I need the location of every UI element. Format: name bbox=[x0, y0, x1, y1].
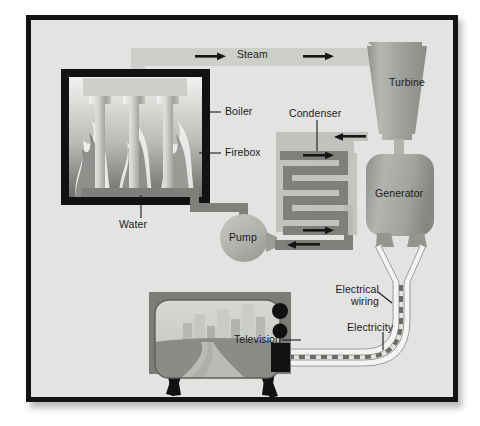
label-electricity: Electricity bbox=[347, 322, 393, 334]
label-generator: Generator bbox=[375, 188, 423, 200]
turbine bbox=[367, 42, 427, 155]
water-pipe bbox=[81, 188, 248, 233]
label-turbine: Turbine bbox=[389, 77, 425, 89]
label-steam: Steam bbox=[237, 49, 268, 61]
label-boiler: Boiler bbox=[225, 106, 252, 118]
label-electrical-wiring-line2: wiring bbox=[299, 296, 379, 308]
label-firebox: Firebox bbox=[225, 147, 261, 159]
diagram-frame: Steam Turbine Boiler Firebox Water Pump … bbox=[26, 15, 458, 402]
diagram-canvas: Steam Turbine Boiler Firebox Water Pump … bbox=[31, 20, 453, 397]
diagram-page: Steam Turbine Boiler Firebox Water Pump … bbox=[0, 0, 480, 426]
label-water: Water bbox=[119, 219, 147, 231]
label-electrical-wiring-line1: Electrical bbox=[299, 284, 379, 296]
label-condenser: Condenser bbox=[289, 108, 341, 120]
label-television: Television bbox=[203, 334, 281, 346]
generator bbox=[366, 154, 434, 247]
label-pump: Pump bbox=[229, 232, 257, 244]
condenser bbox=[276, 132, 368, 235]
boiler-firebox bbox=[65, 73, 206, 201]
